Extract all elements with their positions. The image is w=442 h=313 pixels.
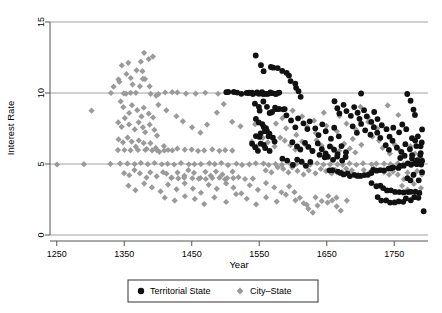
data-point-territorial-state bbox=[371, 124, 377, 130]
data-point-territorial-state bbox=[276, 90, 282, 96]
legend-marker-territorial-state bbox=[138, 288, 144, 294]
x-tick-label-1250: 1250 bbox=[47, 249, 67, 259]
data-point-territorial-state bbox=[255, 148, 261, 154]
data-point-territorial-state bbox=[272, 139, 278, 145]
data-point-territorial-state bbox=[416, 190, 422, 196]
data-point-territorial-state bbox=[343, 154, 349, 160]
data-point-territorial-state bbox=[407, 177, 413, 183]
data-point-territorial-state bbox=[355, 110, 361, 116]
data-point-territorial-state bbox=[396, 129, 402, 135]
data-point-territorial-state bbox=[289, 139, 295, 145]
data-point-territorial-state bbox=[332, 98, 338, 104]
data-point-territorial-state bbox=[315, 141, 321, 147]
data-point-territorial-state bbox=[331, 125, 337, 131]
data-point-territorial-state bbox=[348, 113, 354, 119]
x-tick-label-1450: 1450 bbox=[182, 249, 202, 259]
data-point-territorial-state bbox=[402, 153, 408, 159]
data-point-territorial-state bbox=[379, 122, 385, 128]
data-point-territorial-state bbox=[288, 118, 294, 124]
data-point-territorial-state bbox=[377, 135, 383, 141]
data-point-territorial-state bbox=[339, 143, 345, 149]
data-point-territorial-state bbox=[412, 112, 418, 118]
chart-legend: Territorial State City–State bbox=[128, 280, 318, 302]
data-point-territorial-state bbox=[357, 116, 363, 122]
data-point-territorial-state bbox=[402, 141, 408, 147]
data-point-territorial-state bbox=[261, 68, 267, 74]
data-point-territorial-state bbox=[371, 109, 377, 115]
data-point-territorial-state bbox=[253, 53, 259, 59]
x-tick-label-1650: 1650 bbox=[317, 249, 337, 259]
data-point-territorial-state bbox=[307, 159, 313, 165]
data-point-territorial-state bbox=[411, 172, 417, 178]
data-point-territorial-state bbox=[419, 158, 425, 164]
data-point-territorial-state bbox=[298, 94, 304, 100]
data-point-territorial-state bbox=[282, 106, 288, 112]
data-point-territorial-state bbox=[301, 120, 307, 126]
data-point-territorial-state bbox=[368, 119, 374, 125]
data-point-territorial-state bbox=[421, 208, 427, 214]
data-point-territorial-state bbox=[354, 130, 360, 136]
data-point-territorial-state bbox=[390, 125, 396, 131]
data-point-territorial-state bbox=[296, 88, 302, 94]
data-point-territorial-state bbox=[341, 102, 347, 108]
y-axis-title: Interest Rate bbox=[5, 101, 16, 155]
data-point-territorial-state bbox=[297, 147, 303, 153]
data-point-territorial-state bbox=[390, 165, 396, 171]
data-point-territorial-state bbox=[304, 126, 310, 132]
data-point-territorial-state bbox=[325, 154, 331, 160]
data-point-territorial-state bbox=[386, 147, 392, 153]
x-tick-label-1750: 1750 bbox=[384, 249, 404, 259]
data-point-territorial-state bbox=[307, 118, 313, 124]
data-point-territorial-state bbox=[319, 121, 325, 127]
data-point-territorial-state bbox=[336, 111, 342, 117]
data-point-territorial-state bbox=[286, 73, 292, 79]
data-point-territorial-state bbox=[299, 159, 305, 165]
chart-background bbox=[0, 0, 442, 313]
data-point-territorial-state bbox=[384, 126, 390, 132]
data-point-territorial-state bbox=[284, 158, 290, 164]
data-point-territorial-state bbox=[303, 163, 309, 169]
data-point-territorial-state bbox=[419, 169, 425, 175]
data-point-territorial-state bbox=[334, 154, 340, 160]
data-point-territorial-state bbox=[328, 136, 334, 142]
data-point-territorial-state bbox=[292, 124, 298, 130]
data-point-territorial-state bbox=[416, 177, 422, 183]
data-point-territorial-state bbox=[225, 89, 231, 95]
data-point-territorial-state bbox=[419, 127, 425, 133]
data-point-territorial-state bbox=[409, 156, 415, 162]
data-point-territorial-state bbox=[418, 143, 424, 149]
legend-label-city-state: City–State bbox=[250, 286, 292, 296]
data-point-territorial-state bbox=[336, 133, 342, 139]
data-point-territorial-state bbox=[323, 128, 329, 134]
data-point-territorial-state bbox=[290, 162, 296, 168]
data-point-territorial-state bbox=[394, 145, 400, 151]
data-point-territorial-state bbox=[306, 144, 312, 150]
data-point-territorial-state bbox=[411, 107, 417, 113]
data-point-territorial-state bbox=[368, 132, 374, 138]
data-point-territorial-state bbox=[407, 146, 413, 152]
data-point-territorial-state bbox=[374, 130, 380, 136]
data-point-territorial-state bbox=[264, 104, 270, 110]
data-point-territorial-state bbox=[317, 152, 323, 158]
data-point-territorial-state bbox=[334, 105, 340, 111]
data-point-territorial-state bbox=[403, 126, 409, 132]
data-point-territorial-state bbox=[364, 113, 370, 119]
data-point-territorial-state bbox=[344, 108, 350, 114]
data-point-territorial-state bbox=[263, 125, 269, 131]
data-point-territorial-state bbox=[312, 125, 318, 131]
data-point-territorial-state bbox=[417, 152, 423, 158]
data-point-territorial-state bbox=[238, 91, 244, 97]
data-point-territorial-state bbox=[358, 121, 364, 127]
x-tick-label-1550: 1550 bbox=[249, 249, 269, 259]
data-point-territorial-state bbox=[390, 138, 396, 144]
data-point-territorial-state bbox=[362, 127, 368, 133]
data-point-territorial-state bbox=[399, 122, 405, 128]
data-point-territorial-state bbox=[257, 108, 263, 114]
data-point-territorial-state bbox=[316, 132, 322, 138]
y-tick-label-5: 5 bbox=[36, 161, 46, 166]
y-tick-label-0: 0 bbox=[36, 232, 46, 237]
data-point-territorial-state bbox=[408, 98, 414, 104]
scatter-chart-figure: 051015 125013501450155016501750 Year Int… bbox=[0, 0, 442, 313]
legend-label-territorial-state: Territorial State bbox=[150, 286, 211, 296]
data-point-territorial-state bbox=[358, 91, 364, 97]
